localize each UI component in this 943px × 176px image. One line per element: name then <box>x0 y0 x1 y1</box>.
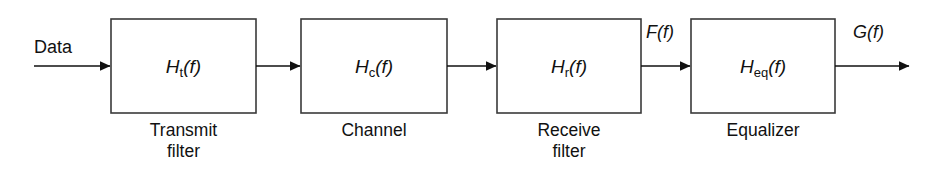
tf-main-receive: H <box>551 56 565 77</box>
tf-arg-equalizer: (f) <box>768 56 786 77</box>
tf-arg-channel: (f) <box>375 56 393 77</box>
caption-receive-filter: Receive filter <box>497 120 641 161</box>
signal-label-g: G(f) <box>853 23 884 41</box>
transfer-function-channel: Hc(f) <box>301 57 447 76</box>
tf-arg-transmit: (f) <box>183 56 201 77</box>
caption-equalizer: Equalizer <box>691 120 835 141</box>
transfer-function-transmit-filter: Ht(f) <box>111 57 256 76</box>
block-diagram: Data Ht(f) Hc(f) Hr(f) Heq(f) F(f) G(f) … <box>0 0 943 176</box>
tf-main-transmit: H <box>166 56 180 77</box>
signal-label-f: F(f) <box>646 23 674 41</box>
tf-sub-receive: r <box>565 65 569 80</box>
transfer-function-equalizer: Heq(f) <box>691 57 835 76</box>
tf-main-channel: H <box>355 56 369 77</box>
signal-f-main: F <box>646 22 657 42</box>
tf-sub-transmit: t <box>180 65 184 80</box>
caption-transmit-filter: Transmit filter <box>111 120 256 161</box>
signal-g-arg: (f) <box>867 22 884 42</box>
input-label: Data <box>34 38 72 56</box>
tf-sub-equalizer: eq <box>754 65 768 80</box>
transfer-function-receive-filter: Hr(f) <box>497 57 641 76</box>
caption-channel: Channel <box>301 120 447 141</box>
tf-main-equalizer: H <box>740 56 754 77</box>
signal-g-main: G <box>853 22 867 42</box>
tf-arg-receive: (f) <box>569 56 587 77</box>
signal-f-arg: (f) <box>657 22 674 42</box>
tf-sub-channel: c <box>369 65 376 80</box>
